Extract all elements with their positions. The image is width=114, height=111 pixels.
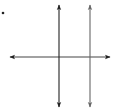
parallel-lines-diagram: [0, 0, 114, 111]
point-dot: [2, 12, 5, 15]
